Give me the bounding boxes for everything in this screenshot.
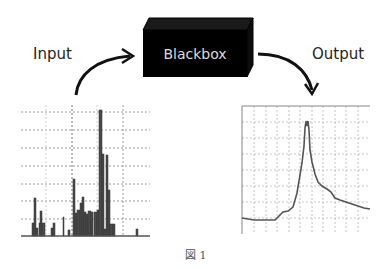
figure-caption: 図 1 [185,246,207,262]
input-arrow-icon [76,49,133,95]
input-bar-chart [21,105,150,236]
output-line-chart [242,106,370,234]
output-arrow-icon [258,54,318,94]
blackbox-label: Blackbox [143,30,247,77]
input-label: Input [33,45,72,63]
output-label: Output [312,45,364,63]
